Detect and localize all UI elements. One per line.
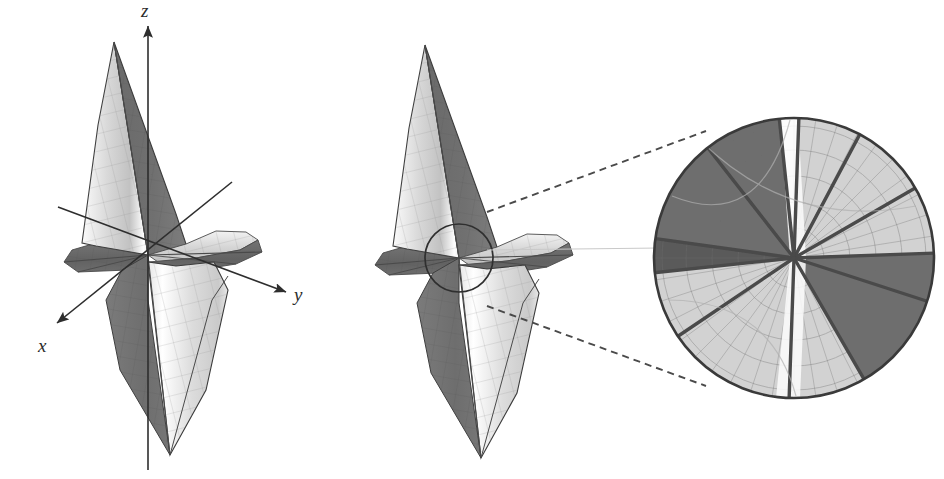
z-axis-label: z xyxy=(140,0,149,21)
surface-figure: z y x xyxy=(0,0,944,479)
figure-canvas: z y x xyxy=(0,0,944,479)
magnified-detail-disk xyxy=(650,114,938,402)
middle-panel-surface xyxy=(375,45,573,458)
x-axis-label: x xyxy=(37,335,47,356)
y-axis-label: y xyxy=(292,284,303,305)
left-panel-surface: z y x xyxy=(37,0,303,470)
